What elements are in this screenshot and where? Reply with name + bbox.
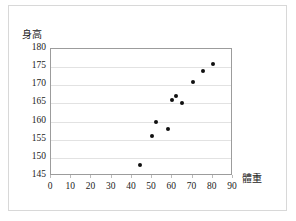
x-tickmark [111,175,112,178]
x-tickmark [131,175,132,178]
x-tickmark [50,175,51,178]
gridline [51,103,231,104]
y-tick-label: 145 [20,170,46,180]
data-point [174,94,178,98]
x-axis-title: 體重 [242,170,262,185]
data-point [201,69,205,73]
x-tick-label: 90 [220,182,244,192]
y-tick-label: 160 [20,116,46,126]
y-axis-title: 身高 [22,26,42,41]
y-axis-tick-labels: 145150155160165170175180 [18,48,46,175]
y-tick-label: 175 [20,61,46,71]
x-axis-tick-labels: 0102030405060708090 [50,182,232,196]
x-axis-tickmarks [50,175,232,179]
y-tick-label: 155 [20,134,46,144]
gridline [51,67,231,68]
data-point [166,127,170,131]
plot-area [50,48,232,175]
data-point [138,163,142,167]
data-point [180,101,184,105]
data-point [150,134,154,138]
x-tickmark [212,175,213,178]
data-point [154,120,158,124]
x-tickmark [171,175,172,178]
y-tick-label: 180 [20,43,46,53]
x-tickmark [90,175,91,178]
data-point [170,98,174,102]
data-point [191,80,195,84]
gridline [51,85,231,86]
x-tickmark [151,175,152,178]
x-tickmark [192,175,193,178]
y-tick-label: 150 [20,152,46,162]
y-tick-label: 170 [20,80,46,90]
data-point [211,62,215,66]
scatter-chart: 身高 145150155160165170175180 010203040506… [0,0,296,221]
x-tickmark [70,175,71,178]
y-tick-label: 165 [20,98,46,108]
gridline [51,140,231,141]
x-tickmark [232,175,233,178]
gridline [51,158,231,159]
gridline [51,122,231,123]
